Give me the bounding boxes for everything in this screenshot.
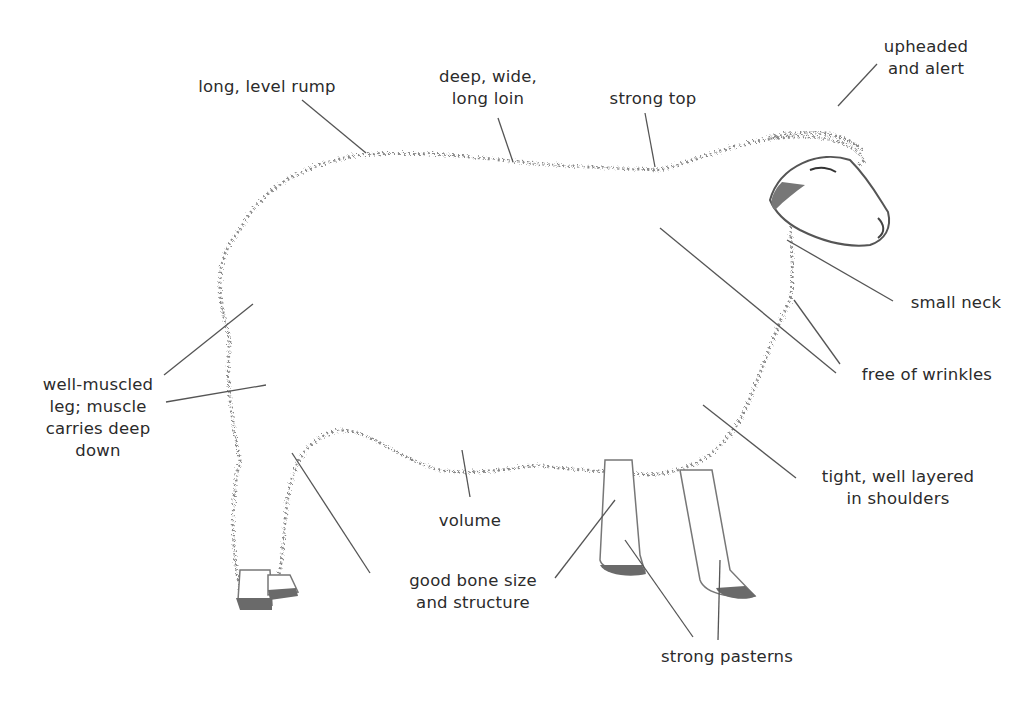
leader-pasterns-1 (625, 540, 693, 637)
leader-rump (302, 100, 366, 153)
label-small-neck: small neck (896, 292, 1016, 314)
label-free-of-wrinkles: free of wrinkles (842, 364, 1012, 386)
sheep-body (220, 137, 865, 590)
label-upheaded-and-alert: upheaded and alert (866, 36, 986, 80)
label-strong-pasterns: strong pasterns (642, 646, 812, 668)
leader-wrinkles-2 (794, 300, 840, 364)
label-strong-top: strong top (598, 88, 708, 110)
label-long-level-rump: long, level rump (162, 76, 372, 98)
leader-loin (498, 118, 513, 162)
leader-small-neck (787, 240, 893, 301)
sheep-diagram: long, level rump deep, wide, long loin s… (0, 0, 1033, 706)
label-volume: volume (425, 510, 515, 532)
label-good-bone-size-and-structure: good bone size and structure (388, 570, 558, 614)
label-tight-well-layered-in-shoulders: tight, well layered in shoulders (798, 466, 998, 510)
label-deep-wide-long-loin: deep, wide, long loin (418, 66, 558, 110)
leader-top (645, 113, 655, 167)
leader-bone-1 (292, 453, 370, 573)
label-well-muscled-leg: well-muscled leg; muscle carries deep do… (28, 374, 168, 462)
